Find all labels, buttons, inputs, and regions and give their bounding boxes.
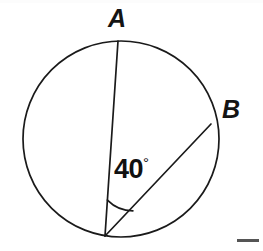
bottom-right-rule — [237, 239, 259, 242]
degree-symbol: ° — [143, 154, 149, 171]
angle-value-text: 40 — [114, 154, 143, 184]
point-label-a: A — [108, 6, 126, 31]
circle-outline — [23, 41, 219, 237]
angle-measure-label: 40° — [114, 155, 149, 183]
angle-arc-marker — [107, 200, 132, 211]
point-label-b: B — [222, 97, 240, 122]
geometry-figure: A B 40° — [0, 0, 263, 251]
circle-diagram-canvas — [0, 0, 263, 251]
